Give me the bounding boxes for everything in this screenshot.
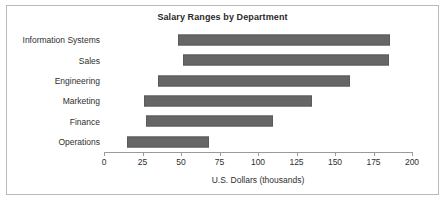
x-axis-tick-mark	[412, 152, 413, 156]
bar-row	[104, 111, 412, 131]
bar-row	[104, 132, 412, 152]
chart-container: Salary Ranges by Department Information …	[0, 0, 445, 200]
x-axis-tick-label: 0	[102, 157, 107, 167]
x-axis-tick-mark	[258, 152, 259, 156]
bar-row	[104, 50, 412, 70]
x-axis-tick-label: 200	[405, 157, 419, 167]
x-axis-tick-mark	[335, 152, 336, 156]
x-axis-tick-label: 100	[251, 157, 265, 167]
chart-title: Salary Ranges by Department	[0, 12, 445, 22]
x-axis-tick-label: 75	[215, 157, 224, 167]
x-axis-tick-label: 50	[176, 157, 185, 167]
x-axis-tick-label: 125	[289, 157, 303, 167]
y-axis-tick-label: Marketing	[2, 96, 100, 106]
x-axis-tick-mark	[220, 152, 221, 156]
x-axis-tick-label: 25	[138, 157, 147, 167]
bar[interactable]	[146, 116, 274, 127]
x-axis-tick-mark	[143, 152, 144, 156]
y-axis-tick-label: Finance	[2, 117, 100, 127]
bar-row	[104, 30, 412, 50]
x-axis-title: U.S. Dollars (thousands)	[104, 175, 412, 185]
bar-row	[104, 91, 412, 111]
x-axis-tick-label: 175	[366, 157, 380, 167]
bar[interactable]	[158, 75, 351, 86]
x-axis-tick-mark	[104, 152, 105, 156]
x-axis-tick-mark	[181, 152, 182, 156]
x-axis-tick-mark	[374, 152, 375, 156]
bar[interactable]	[178, 35, 391, 46]
y-axis-tick-label: Engineering	[2, 76, 100, 86]
plot-area	[104, 30, 412, 152]
y-axis-tick-label: Operations	[2, 137, 100, 147]
bar-row	[104, 71, 412, 91]
y-axis-tick-label: Information Systems	[2, 35, 100, 45]
y-axis-category-labels: Information SystemsSalesEngineeringMarke…	[0, 30, 100, 152]
y-axis-tick-label: Sales	[2, 56, 100, 66]
x-axis-tick-mark	[297, 152, 298, 156]
bar[interactable]	[127, 136, 209, 147]
bar[interactable]	[183, 55, 389, 66]
bar[interactable]	[144, 96, 312, 107]
x-axis-tick-label: 150	[328, 157, 342, 167]
